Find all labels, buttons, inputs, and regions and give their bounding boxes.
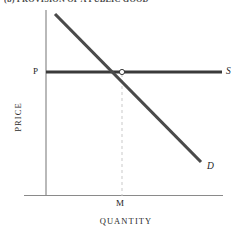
x-axis-tick-m: M	[116, 198, 124, 208]
demand-curve-label: D	[207, 161, 214, 171]
y-axis-tick-p: P	[33, 66, 38, 76]
supply-curve-label: S	[226, 66, 231, 76]
equilibrium-marker	[119, 69, 124, 74]
x-axis-label: QUANTITY	[78, 216, 174, 226]
demand-curve	[55, 14, 201, 162]
y-axis-label: PRICE	[13, 87, 23, 147]
